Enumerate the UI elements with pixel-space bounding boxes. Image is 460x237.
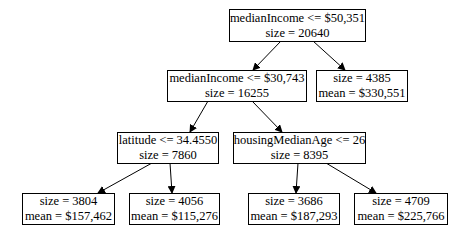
edge-n4-n7 bbox=[296, 163, 298, 193]
node-size: size = 16255 bbox=[205, 86, 269, 101]
node-mean: mean = $330,551 bbox=[318, 86, 405, 101]
node-mean: mean = $225,766 bbox=[357, 209, 444, 224]
edge-root-n1 bbox=[253, 41, 281, 70]
node-condition: housingMedianAge <= 26 bbox=[234, 133, 365, 148]
edge-n3-n5 bbox=[98, 163, 152, 193]
edge-n4-n8 bbox=[326, 163, 376, 193]
tree-node-n2: size = 4385 mean = $330,551 bbox=[316, 70, 408, 102]
tree-node-n4: housingMedianAge <= 26 size = 8395 bbox=[233, 132, 366, 164]
tree-node-root: medianIncome <= $50,351 size = 20640 bbox=[229, 9, 366, 42]
node-size: size = 4056 bbox=[146, 194, 204, 209]
node-condition: medianIncome <= $50,351 bbox=[230, 11, 365, 26]
node-size: size = 7860 bbox=[139, 148, 197, 163]
node-size: size = 4385 bbox=[333, 71, 391, 86]
node-mean: mean = $157,462 bbox=[25, 209, 112, 224]
tree-node-n8: size = 4709 mean = $225,766 bbox=[354, 193, 448, 225]
tree-node-n3: latitude <= 34.4550 size = 7860 bbox=[117, 132, 219, 164]
node-condition: latitude <= 34.4550 bbox=[119, 133, 217, 148]
edge-n1-n3 bbox=[190, 101, 208, 132]
tree-node-n6: size = 4056 mean = $115,276 bbox=[129, 193, 220, 225]
node-condition: medianIncome <= $30,743 bbox=[169, 71, 304, 86]
edge-n3-n6 bbox=[170, 163, 172, 193]
tree-node-n1: medianIncome <= $30,743 size = 16255 bbox=[167, 70, 307, 102]
node-size: size = 3804 bbox=[40, 194, 98, 209]
node-size: size = 8395 bbox=[271, 148, 329, 163]
node-mean: mean = $115,276 bbox=[131, 209, 218, 224]
edge-n1-n4 bbox=[252, 101, 282, 132]
node-mean: mean = $187,293 bbox=[250, 209, 337, 224]
tree-node-n7: size = 3686 mean = $187,293 bbox=[248, 193, 340, 225]
tree-node-n5: size = 3804 mean = $157,462 bbox=[22, 193, 115, 225]
node-size: size = 3686 bbox=[265, 194, 323, 209]
node-size: size = 4709 bbox=[372, 194, 430, 209]
node-size: size = 20640 bbox=[266, 26, 330, 41]
edge-root-n2 bbox=[313, 41, 345, 70]
